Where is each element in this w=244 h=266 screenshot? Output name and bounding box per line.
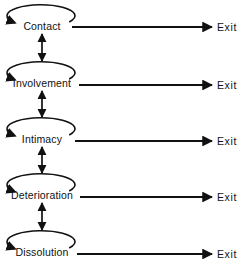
stage-label-intimacy: Intimacy (22, 133, 62, 145)
stage-label-dissolution: Dissolution (15, 246, 68, 258)
self-loop-group (7, 5, 75, 249)
stage-label-involvement: Involvement (13, 77, 71, 89)
stage-label-contact: Contact (23, 20, 60, 32)
exit-label-intimacy: Exit (217, 135, 237, 147)
relationship-stages-diagram: ContactInvolvementIntimacyDeteriorationD… (0, 0, 244, 266)
stage-label-deterioration: Deterioration (11, 189, 73, 201)
exit-label-contact: Exit (217, 21, 237, 33)
exit-arrow-group (72, 27, 212, 254)
exit-label-deterioration: Exit (217, 191, 237, 203)
exit-label-dissolution: Exit (217, 248, 237, 260)
exit-label-involvement: Exit (217, 79, 237, 91)
